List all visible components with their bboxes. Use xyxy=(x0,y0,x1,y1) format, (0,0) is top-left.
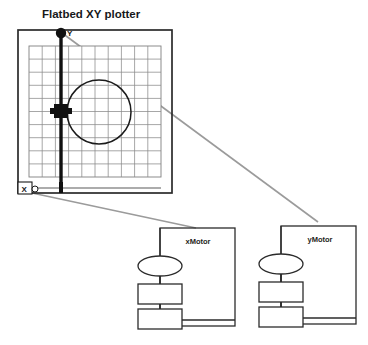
ymotor-ellipse xyxy=(259,254,303,274)
ymotor-gear-box-upper xyxy=(259,282,303,302)
xmotor-ellipse xyxy=(138,256,182,276)
plotter-grid xyxy=(29,46,161,177)
xmotor-group: xMotor xyxy=(138,228,235,329)
xmotor-label: xMotor xyxy=(186,237,211,246)
xmotor-gear-box-upper xyxy=(138,284,182,304)
x-axis-label: X xyxy=(22,185,28,194)
connector-x-to-xmotor xyxy=(32,193,196,228)
flatbed-xy-plotter-diagram: Flatbed XY plotter xyxy=(0,0,368,345)
ymotor-group: yMotor xyxy=(259,226,356,327)
y-pulley-circle xyxy=(56,28,66,38)
ymotor-label: yMotor xyxy=(308,235,333,244)
y-axis-label: Y xyxy=(67,29,73,38)
pen-carriage-cross xyxy=(50,108,72,114)
page-title: Flatbed XY plotter xyxy=(42,8,141,20)
xmotor-gear-box-lower xyxy=(138,309,182,329)
ymotor-gear-box-lower xyxy=(259,307,303,327)
x-pulley-nub xyxy=(32,186,38,192)
